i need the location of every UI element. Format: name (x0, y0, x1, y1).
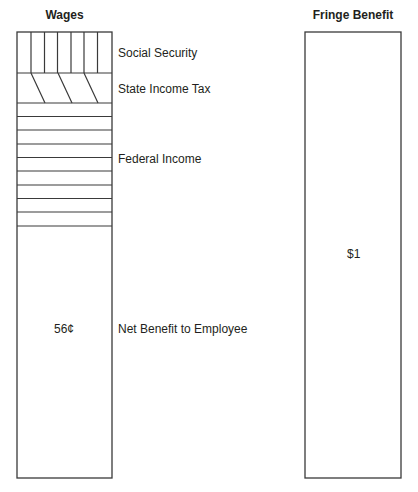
federal-income-segment (17, 117, 112, 227)
wages-bar (17, 32, 112, 478)
net-value-label: 56¢ (54, 322, 74, 336)
fringe-value-label: $1 (347, 247, 360, 261)
social-security-segment (17, 32, 112, 73)
net-benefit-label: Net Benefit to Employee (118, 322, 247, 336)
diagram-canvas (0, 0, 418, 492)
social-security-label: Social Security (118, 46, 197, 60)
state-income-tax-label: State Income Tax (118, 82, 211, 96)
wages-title: Wages (17, 8, 112, 22)
fringe-benefit-title: Fringe Benefit (295, 8, 411, 22)
federal-income-label: Federal Income (118, 152, 201, 166)
state-income-tax-segment (17, 73, 112, 103)
